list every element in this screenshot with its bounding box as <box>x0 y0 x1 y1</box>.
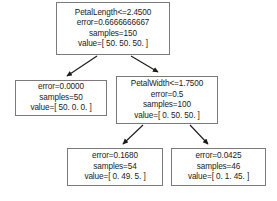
node-error: error=0.0000 <box>38 82 84 93</box>
node-samples: samples=46 <box>197 162 240 173</box>
tree-node-petal-width[interactable]: PetalWidth<=1.7500 error=0.5 samples=100… <box>116 76 218 124</box>
edge-root-to-left <box>67 56 97 76</box>
tree-node-left-leaf[interactable]: error=0.0000 samples=50 value=[ 50. 0. 0… <box>15 80 107 116</box>
node-value: value=[ 50. 0. 0. ] <box>30 103 91 114</box>
node-value: value=[ 0. 49. 5. ] <box>84 172 145 183</box>
edge-root-to-right <box>131 56 158 72</box>
tree-node-leaf-versicolor[interactable]: error=0.1680 samples=54 value=[ 0. 49. 5… <box>67 148 163 186</box>
edge-right-to-leaf-right <box>190 125 208 144</box>
tree-node-root[interactable]: PetalLength<=2.4500 error=0.6666666667 s… <box>56 2 170 55</box>
node-error: error=0.1680 <box>92 151 138 162</box>
node-error: error=0.5 <box>151 90 184 101</box>
node-condition: PetalWidth<=1.7500 <box>131 79 203 90</box>
node-samples: samples=150 <box>89 29 137 40</box>
node-error: error=0.0425 <box>196 151 242 162</box>
node-error: error=0.6666666667 <box>77 18 150 29</box>
tree-node-leaf-virginica[interactable]: error=0.0425 samples=46 value=[ 0. 1. 45… <box>171 148 266 186</box>
node-condition: PetalLength<=2.4500 <box>75 8 151 19</box>
decision-tree-diagram: PetalLength<=2.4500 error=0.6666666667 s… <box>0 0 277 201</box>
node-value: value=[ 0. 1. 45. ] <box>188 172 249 183</box>
node-value: value=[ 50. 50. 50. ] <box>78 39 148 50</box>
node-samples: samples=100 <box>143 100 191 111</box>
node-value: value=[ 0. 50. 50. ] <box>134 111 200 122</box>
edge-right-to-leaf-left <box>123 125 143 144</box>
node-samples: samples=50 <box>39 93 82 104</box>
node-samples: samples=54 <box>93 162 136 173</box>
